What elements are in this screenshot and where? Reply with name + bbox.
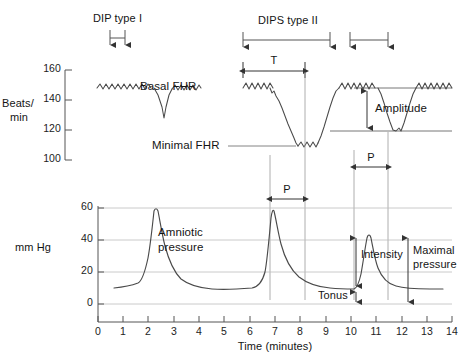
xtick-9: 9	[316, 326, 336, 337]
xtick-2: 2	[138, 326, 158, 337]
xtick-4: 4	[189, 326, 209, 337]
time-x-axis	[98, 316, 452, 322]
fhr-ytick-140: 140	[34, 93, 61, 104]
xtick-10: 10	[341, 326, 361, 337]
maximal-pressure-label-line2: pressure	[413, 259, 457, 271]
xtick-5: 5	[214, 326, 234, 337]
x-axis-title: Time (minutes)	[215, 341, 335, 353]
fhr-ytick-100: 100	[34, 153, 61, 164]
fhr-trace	[97, 83, 452, 147]
interval-P1-label: P	[361, 152, 381, 164]
fhr-axis-title-line1: Beats/	[2, 98, 34, 110]
xtick-0: 0	[88, 326, 108, 337]
minimal-fhr-label: Minimal FHR	[152, 139, 220, 151]
pressure-ytick-40: 40	[66, 233, 93, 244]
dip-type-1-label: DIP type I	[93, 13, 142, 25]
dips-type-2-marker	[243, 32, 388, 47]
xtick-14: 14	[442, 326, 461, 337]
amniotic-pressure-label-line1: Amniotic	[158, 226, 203, 238]
xtick-1: 1	[113, 326, 133, 337]
fhr-ytick-120: 120	[34, 123, 61, 134]
maximal-pressure-label-line1: Maximal	[413, 245, 455, 257]
pressure-ytick-0: 0	[66, 297, 93, 308]
fhr-axis-title-line2: min	[10, 112, 28, 124]
fhr-y-axis	[65, 70, 72, 160]
xtick-13: 13	[417, 326, 437, 337]
pressure-ytick-20: 20	[66, 265, 93, 276]
fhr-ytick-160: 160	[34, 63, 61, 74]
xtick-8: 8	[290, 326, 310, 337]
xtick-6: 6	[240, 326, 260, 337]
xtick-7: 7	[265, 326, 285, 337]
tonus-label: Tonus	[318, 290, 348, 302]
xtick-12: 12	[392, 326, 412, 337]
amplitude-label: Amplitude	[375, 102, 427, 114]
interval-T-label: T	[264, 55, 284, 67]
interval-P2-label: P	[277, 184, 297, 196]
dips-type-2-label: DIPS type II	[258, 15, 318, 27]
pressure-axis-title: mm Hg	[15, 242, 51, 254]
intensity-label: Intensity	[361, 249, 403, 261]
basal-fhr-label: Basal FHR	[140, 80, 197, 92]
pressure-y-axis	[98, 206, 104, 322]
dip-type-1-marker	[110, 30, 125, 45]
xtick-11: 11	[366, 326, 386, 337]
xtick-3: 3	[164, 326, 184, 337]
pressure-ytick-60: 60	[66, 201, 93, 212]
amniotic-pressure-label-line2: pressure	[158, 241, 204, 253]
